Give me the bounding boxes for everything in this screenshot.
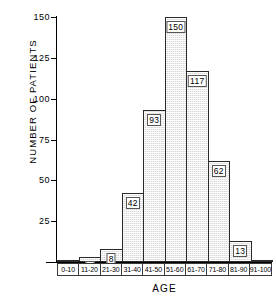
histogram-bar: 62: [208, 161, 231, 262]
bar-value-label: 150: [166, 21, 185, 33]
bar-value-label: 62: [212, 165, 226, 177]
bar-value-label: 117: [188, 75, 206, 87]
bar-value-label: 42: [126, 197, 140, 209]
histogram-bar: 150: [165, 17, 188, 262]
x-axis-tick-row: 0-1011-2021-3031-4041-5051-6061-7071-808…: [57, 263, 272, 276]
x-tick-label: 21-30: [101, 264, 122, 275]
histogram-bar: 13: [229, 241, 252, 262]
histogram-bar: 3: [79, 257, 102, 262]
bar-series: 3842931501176213: [57, 17, 272, 262]
bar-value-label: 13: [233, 245, 247, 257]
histogram-bar: [251, 260, 274, 262]
histogram-bar: 42: [122, 193, 145, 262]
x-axis-title: AGE: [57, 283, 272, 294]
x-tick-label: 11-20: [79, 264, 100, 275]
x-tick-label: 81-90: [229, 264, 250, 275]
histogram-bar: 117: [186, 71, 209, 262]
y-tick-label: 100: [4, 94, 50, 104]
y-tick-label: 25: [4, 216, 50, 226]
histogram-bar: [57, 260, 80, 262]
y-tick-label: 150: [4, 12, 50, 22]
y-tick-label: 125: [4, 53, 50, 63]
bar-value-label: 93: [147, 114, 161, 126]
histogram-bar: 93: [143, 110, 166, 262]
y-tick-label: 50: [4, 175, 50, 185]
x-tick-label: 41-50: [143, 264, 164, 275]
x-tick-label: 91-100: [250, 264, 271, 275]
x-tick-label: 71-80: [207, 264, 228, 275]
x-tick-label: 0-10: [58, 264, 79, 275]
y-axis-ticks: 150125100755025: [0, 0, 50, 305]
plot-area: 3842931501176213: [57, 17, 272, 262]
y-tick-label: 75: [4, 135, 50, 145]
histogram-figure: NUMBER OF PATIENTS 150125100755025 38429…: [0, 0, 276, 305]
histogram-bar: 8: [100, 249, 123, 262]
x-tick-label: 61-70: [186, 264, 207, 275]
x-tick-label: 51-60: [165, 264, 186, 275]
x-tick-label: 31-40: [122, 264, 143, 275]
